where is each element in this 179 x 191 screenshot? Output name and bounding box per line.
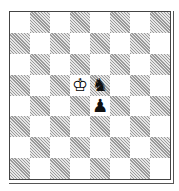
square-e7[interactable]	[90, 33, 110, 54]
square-b5[interactable]	[30, 75, 50, 96]
square-b8[interactable]	[30, 12, 50, 33]
square-b1[interactable]	[30, 158, 50, 179]
square-d6[interactable]	[70, 54, 90, 75]
square-h8[interactable]	[150, 12, 170, 33]
square-b4[interactable]	[30, 96, 50, 117]
square-c1[interactable]	[50, 158, 70, 179]
square-g5[interactable]	[130, 75, 150, 96]
square-c2[interactable]	[50, 137, 70, 158]
square-e5[interactable]: ♞	[90, 75, 110, 96]
black-knight-icon[interactable]: ♞	[92, 76, 108, 94]
square-f5[interactable]	[110, 75, 130, 96]
square-h5[interactable]	[150, 75, 170, 96]
square-a8[interactable]	[10, 12, 30, 33]
square-e2[interactable]	[90, 137, 110, 158]
square-a4[interactable]	[10, 96, 30, 117]
square-h2[interactable]	[150, 137, 170, 158]
square-h7[interactable]	[150, 33, 170, 54]
square-d8[interactable]	[70, 12, 90, 33]
square-c5[interactable]	[50, 75, 70, 96]
square-h3[interactable]	[150, 116, 170, 137]
square-b6[interactable]	[30, 54, 50, 75]
square-g4[interactable]	[130, 96, 150, 117]
square-g7[interactable]	[130, 33, 150, 54]
square-f3[interactable]	[110, 116, 130, 137]
square-g6[interactable]	[130, 54, 150, 75]
square-c6[interactable]	[50, 54, 70, 75]
square-d5[interactable]: ♔	[70, 75, 90, 96]
square-a2[interactable]	[10, 137, 30, 158]
square-h1[interactable]	[150, 158, 170, 179]
square-c8[interactable]	[50, 12, 70, 33]
square-b2[interactable]	[30, 137, 50, 158]
square-a1[interactable]	[10, 158, 30, 179]
square-g2[interactable]	[130, 137, 150, 158]
chess-board[interactable]: ♔♞♟	[9, 11, 171, 180]
square-d7[interactable]	[70, 33, 90, 54]
square-g3[interactable]	[130, 116, 150, 137]
black-pawn-icon[interactable]: ♟	[92, 97, 108, 115]
square-e4[interactable]: ♟	[90, 96, 110, 117]
square-d4[interactable]	[70, 96, 90, 117]
square-d3[interactable]	[70, 116, 90, 137]
square-f2[interactable]	[110, 137, 130, 158]
square-b3[interactable]	[30, 116, 50, 137]
square-d1[interactable]	[70, 158, 90, 179]
square-c7[interactable]	[50, 33, 70, 54]
square-g1[interactable]	[130, 158, 150, 179]
square-e8[interactable]	[90, 12, 110, 33]
square-e3[interactable]	[90, 116, 110, 137]
square-a6[interactable]	[10, 54, 30, 75]
square-e6[interactable]	[90, 54, 110, 75]
square-f4[interactable]	[110, 96, 130, 117]
white-king-icon[interactable]: ♔	[72, 76, 88, 94]
square-b7[interactable]	[30, 33, 50, 54]
square-c4[interactable]	[50, 96, 70, 117]
square-c3[interactable]	[50, 116, 70, 137]
square-h4[interactable]	[150, 96, 170, 117]
square-f7[interactable]	[110, 33, 130, 54]
square-a5[interactable]	[10, 75, 30, 96]
square-g8[interactable]	[130, 12, 150, 33]
square-h6[interactable]	[150, 54, 170, 75]
square-e1[interactable]	[90, 158, 110, 179]
square-f8[interactable]	[110, 12, 130, 33]
square-a3[interactable]	[10, 116, 30, 137]
square-d2[interactable]	[70, 137, 90, 158]
square-f6[interactable]	[110, 54, 130, 75]
square-f1[interactable]	[110, 158, 130, 179]
square-a7[interactable]	[10, 33, 30, 54]
